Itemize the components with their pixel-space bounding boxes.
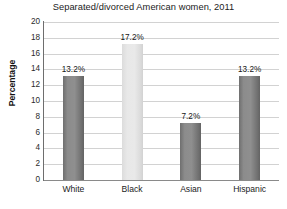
bar-hispanic [239,76,260,180]
y-axis-tick-label: 2 [14,160,40,168]
plot-area: 13.2%17.2%7.2%13.2% [44,22,279,180]
y-axis-tick-label: 6 [14,129,40,137]
y-axis-tick-label: 12 [14,81,40,89]
y-axis-line [43,21,44,181]
y-axis-tick-label: 4 [14,144,40,152]
y-axis-tick-label: 8 [14,113,40,121]
x-axis-tick-label: Hispanic [220,184,280,194]
y-axis-tick-labels: 20181614121086420 [10,0,40,209]
x-axis-tick-label: White [43,184,103,194]
y-axis-tick-label: 14 [14,65,40,73]
y-axis-tick-label: 0 [14,176,40,184]
gridline [44,38,279,39]
y-axis-tick-label: 20 [14,18,40,26]
gridline [44,22,279,23]
chart-title: Separated/divorced American women, 2011 [0,2,287,12]
x-axis-line [44,180,279,181]
y-axis-tick-label: 18 [14,34,40,42]
bar-black [122,44,143,180]
y-axis-tick-label: 16 [14,50,40,58]
bar-chart-figure: Separated/divorced American women, 2011 … [0,0,287,209]
bar-value-label: 13.2% [230,65,270,74]
gridline [44,54,279,55]
bar-value-label: 7.2% [171,112,211,121]
bar-value-label: 13.2% [53,65,93,74]
bar-asian [180,123,201,180]
y-axis-tick-label: 10 [14,97,40,105]
x-axis-tick-label: Black [102,184,162,194]
x-axis-tick-label: Asian [161,184,221,194]
bar-white [63,76,84,180]
bar-value-label: 17.2% [112,33,152,42]
